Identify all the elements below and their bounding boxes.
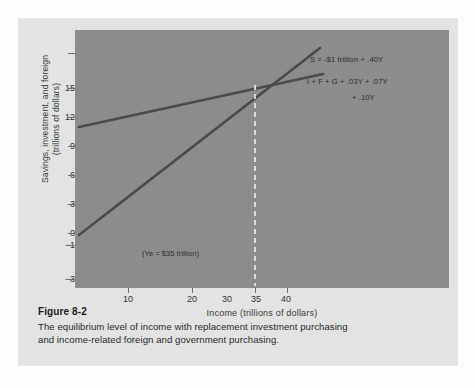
- figure-page: Savings, investment, and foreign (trilli…: [0, 0, 475, 388]
- chart-figure: Savings, investment, and foreign (trilli…: [18, 18, 458, 298]
- figure-caption: Figure 8-2 The equilibrium level of inco…: [38, 306, 438, 346]
- figure-number: Figure 8-2: [38, 306, 438, 317]
- figure-card: Savings, investment, and foreign (trilli…: [18, 18, 458, 366]
- x-tick-label: 35: [251, 294, 261, 304]
- figure-caption-line-2: and income-related foreign and governmen…: [38, 333, 438, 346]
- spending-line: [79, 74, 323, 127]
- plot-area: S = -$1 trillion + .40Y I + F + G + .03Y…: [75, 30, 449, 288]
- equilibrium-label: (Ye = $35 trillion): [142, 249, 199, 258]
- spending-equation-annotation-line1: I + F + G + .03Y + .07Y: [307, 77, 388, 86]
- savings-line: [79, 48, 320, 235]
- x-tick-label: 10: [123, 294, 133, 304]
- savings-equation-annotation: S = -$1 trillion + .40Y: [310, 55, 383, 64]
- x-tick-label: 30: [222, 294, 232, 304]
- chart-svg: [75, 30, 449, 288]
- spending-equation-annotation-line2: + .10Y: [352, 93, 375, 102]
- x-tick-label: 40: [281, 294, 291, 304]
- figure-caption-line-1: The equilibrium level of income with rep…: [38, 320, 438, 333]
- y-axis-ticks: 15 12 9 6 3 0 −1 −3: [18, 30, 75, 288]
- x-tick-label: 20: [187, 294, 197, 304]
